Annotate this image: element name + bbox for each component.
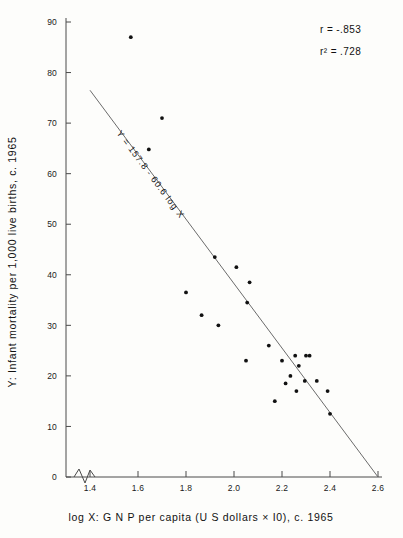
data-point [295,389,299,393]
data-point [308,354,312,358]
y-axis-title: Y: Infant mortality per 1,000 live birth… [6,137,18,388]
y-tick-label: 50 [47,219,57,229]
data-point [284,382,288,386]
y-tick-label: 80 [47,68,57,78]
y-tick-label: 60 [47,169,57,179]
data-point [280,359,284,363]
data-point [248,280,252,284]
x-axis-tick-group: 1.41.61.82.02.22.42.6 [84,471,384,493]
data-point [315,379,319,383]
data-point [160,116,164,120]
x-tick-label: 2.6 [372,483,384,493]
data-point [289,374,293,378]
data-point [217,323,221,327]
x-tick-label: 1.4 [84,483,96,493]
data-point-group [129,35,332,415]
plot-canvas: 0102030405060708090 1.41.61.82.02.22.42.… [0,0,403,538]
data-point [293,354,297,358]
y-tick-label: 40 [47,270,57,280]
y-axis-tick-group: 0102030405060708090 [47,17,71,482]
data-point [304,354,308,358]
x-axis-title: log X: G N P per capita (U S dollars × I… [68,511,333,523]
x-tick-label: 2.0 [228,483,240,493]
data-point [273,399,277,403]
x-tick-label: 2.2 [276,483,288,493]
data-point [328,412,332,416]
y-tick-label: 70 [47,118,57,128]
y-tick-label: 30 [47,321,57,331]
y-tick-label: 10 [47,422,57,432]
x-tick-label: 1.8 [180,483,192,493]
data-point [303,379,307,383]
data-point [213,255,217,259]
axis-break-zigzag-icon [74,469,95,483]
x-tick-label: 1.6 [132,483,144,493]
data-point [245,301,249,305]
data-point [200,313,204,317]
regression-equation-label: Y = 157.8 - 60.6 log X [115,129,187,221]
y-tick-label: 90 [47,17,57,27]
x-tick-label: 2.4 [324,483,336,493]
data-point [326,389,330,393]
y-tick-label: 20 [47,371,57,381]
r-squared-annotation: r² = .728 [320,46,361,57]
data-point [184,291,188,295]
y-tick-label: 0 [52,472,57,482]
data-point [129,35,133,39]
data-point [235,265,239,269]
data-point [267,344,271,348]
scatter-plot-figure: 0102030405060708090 1.41.61.82.02.22.42.… [0,0,403,538]
data-point [244,359,248,363]
correlation-annotation: r = -.853 [320,24,361,35]
data-point [297,364,301,368]
data-point [147,148,151,152]
